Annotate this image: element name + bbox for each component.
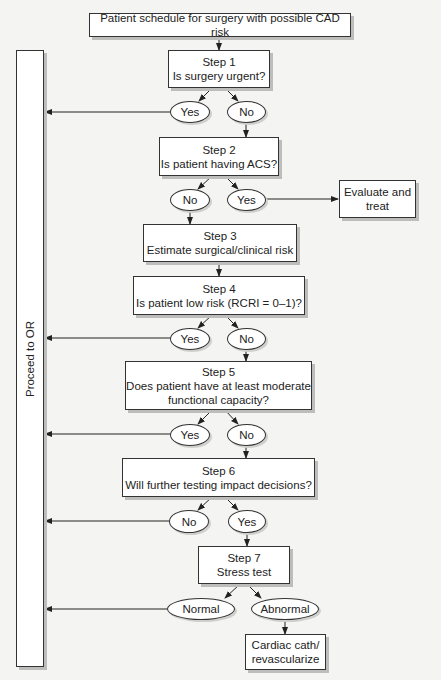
step5-no-label: No [239,429,254,441]
step7-question: Stress test [217,565,271,579]
step1-no: No [227,101,266,123]
step3-node: Step 3 Estimate surgical/clinical risk [143,224,297,262]
step3-question: Estimate surgical/clinical risk [147,243,293,257]
step1-yes-label: Yes [181,106,200,118]
evaluate-treat-node: Evaluate and treat [339,180,416,218]
evaluate-line2: treat [366,199,389,213]
step1-no-label: No [239,106,254,118]
step6-no: No [169,510,209,533]
step5-no: No [227,424,266,446]
step5-node: Step 5 Does patient have at least modera… [125,361,312,410]
step6-no-label: No [182,516,197,528]
step2-title: Step 2 [202,143,235,157]
step4-yes: Yes [170,328,210,350]
step6-node: Step 6 Will further testing impact decis… [122,458,315,497]
step3-title: Step 3 [203,229,236,243]
step7-normal-label: Normal [182,603,219,615]
step5-yes-label: Yes [181,429,200,441]
step2-no-label: No [183,194,198,206]
cardiac-cath-node: Cardiac cath/ revascularize [245,634,326,670]
step1-node: Step 1 Is surgery urgent? [168,50,270,88]
step4-no: No [227,328,266,350]
step7-title: Step 7 [227,551,260,565]
step4-yes-label: Yes [181,333,200,345]
step2-yes: Yes [227,189,266,211]
step6-yes-label: Yes [238,516,257,528]
step7-abnormal-label: Abnormal [260,603,309,615]
step5-title: Step 5 [202,365,235,379]
step2-yes-label: Yes [237,194,256,206]
step4-node: Step 4 Is patient low risk (RCRI = 0–1)? [133,276,305,315]
start-label: Patient schedule for surgery with possib… [90,11,350,39]
step4-no-label: No [239,333,254,345]
step2-node: Step 2 Is patient having ACS? [159,137,279,176]
step7-node: Step 7 Stress test [198,546,290,584]
step6-question: Will further testing impact decisions? [125,478,312,492]
step4-question: Is patient low risk (RCRI = 0–1)? [136,296,302,310]
step4-title: Step 4 [202,282,235,296]
evaluate-line1: Evaluate and [344,185,411,199]
cath-line1: Cardiac cath/ [252,638,320,652]
step5-question-line2: functional capacity? [168,393,269,407]
step6-yes: Yes [228,510,266,533]
step2-question: Is patient having ACS? [161,157,277,171]
cath-line2: revascularize [252,652,320,666]
step7-abnormal: Abnormal [251,598,319,620]
step5-yes: Yes [170,424,210,446]
step7-normal: Normal [167,598,235,620]
step2-no: No [170,189,210,211]
proceed-to-or-label: Proceed to OR [24,320,36,396]
step6-title: Step 6 [202,464,235,478]
start-node: Patient schedule for surgery with possib… [89,13,351,37]
step1-question: Is surgery urgent? [173,69,266,83]
proceed-to-or-bar: Proceed to OR [16,50,44,667]
step1-yes: Yes [170,101,210,123]
step1-title: Step 1 [202,55,235,69]
step5-question-line1: Does patient have at least moderate [126,379,311,393]
